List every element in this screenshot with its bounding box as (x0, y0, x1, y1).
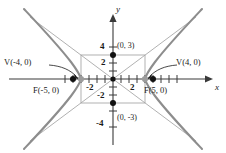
x-axis-label: x (215, 83, 219, 92)
vertex-right-leader-arrow (150, 65, 177, 76)
y-tick-label-4: 4 (100, 42, 105, 51)
y-axis-label: y (116, 5, 120, 14)
focus-left-label: F(-5, 0) (33, 86, 59, 95)
origin-point (110, 76, 115, 81)
x-tick-label-minus-2: -2 (86, 83, 94, 92)
y-tick-label-minus-4: -4 (96, 119, 104, 128)
focus-left-point (70, 76, 76, 82)
focus-right-point (150, 76, 156, 82)
y-axis-arrowhead (109, 14, 116, 22)
co-vertex-bottom-point (110, 100, 116, 106)
co-vertex-bottom-label: (0, -3) (117, 114, 137, 122)
y-tick-label-2: 2 (101, 58, 106, 67)
x-axis-arrowhead (205, 75, 213, 82)
co-vertex-top-label: (0, 3) (117, 42, 134, 50)
vertex-left-label: V(-4, 0) (4, 58, 31, 67)
focus-right-label: F(5, 0) (144, 86, 167, 95)
co-vertex-top-point (110, 52, 116, 58)
vertex-left-leader-arrow (49, 65, 76, 76)
vertex-right-point (142, 76, 148, 82)
vertex-left-point (78, 76, 84, 82)
y-tick-label-minus-2: -2 (97, 91, 105, 100)
vertex-right-label: V(4, 0) (176, 58, 201, 67)
graph-canvas (0, 0, 226, 153)
x-tick-label-2: 2 (130, 83, 135, 92)
hyperbola-figure: x y 4 2 -2 -4 -2 2 (0, 3) (0, -3) V(-4, … (0, 0, 226, 153)
